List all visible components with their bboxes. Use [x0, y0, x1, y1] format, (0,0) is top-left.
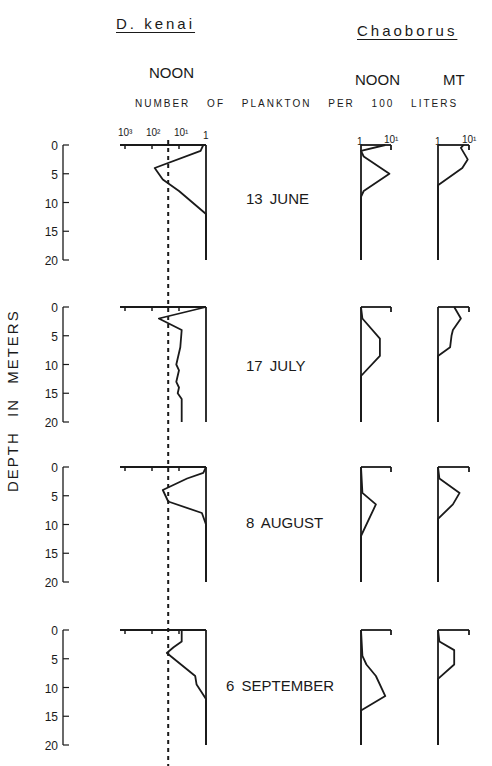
profile-line [361, 307, 380, 422]
profile-line [361, 630, 385, 745]
profile-line [438, 630, 454, 745]
profile-line [438, 467, 460, 582]
profile-line [163, 467, 206, 582]
profile-line [438, 307, 461, 422]
profile-line [438, 145, 468, 260]
profile-line [361, 467, 376, 582]
profile-line [155, 145, 206, 260]
profile-line [159, 307, 206, 422]
depth-profile-plot [0, 0, 492, 766]
profile-line [167, 630, 206, 745]
profile-line [361, 145, 389, 260]
